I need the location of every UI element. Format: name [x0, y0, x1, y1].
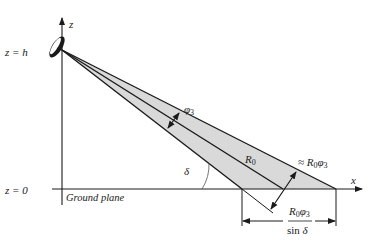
beam-center-line — [62, 50, 283, 189]
height-label: z = h — [4, 46, 28, 58]
approx-width-label: ≈ R0φ3 — [298, 156, 328, 170]
elevation-angle-label: δ — [184, 165, 190, 177]
beam-upper-edge — [62, 50, 336, 189]
elevation-angle-arc — [202, 163, 209, 189]
antenna-dish-icon — [46, 34, 67, 60]
footprint-numerator: R0φ3 — [288, 205, 310, 219]
beam-lower-edge — [62, 50, 242, 189]
beamwidth-label: φ3 — [184, 103, 194, 117]
z-axis-label: z — [68, 18, 74, 30]
antenna-footprint-diagram: z z = h z = 0 Ground plane x φ3 R0 δ ≈ R… — [0, 0, 382, 248]
footprint-denominator: sin δ — [287, 224, 309, 236]
ground-plane-label: Ground plane — [66, 192, 125, 203]
x-axis-label: x — [350, 174, 356, 186]
ground-level-label: z = 0 — [4, 184, 28, 196]
extension-line — [242, 189, 273, 213]
